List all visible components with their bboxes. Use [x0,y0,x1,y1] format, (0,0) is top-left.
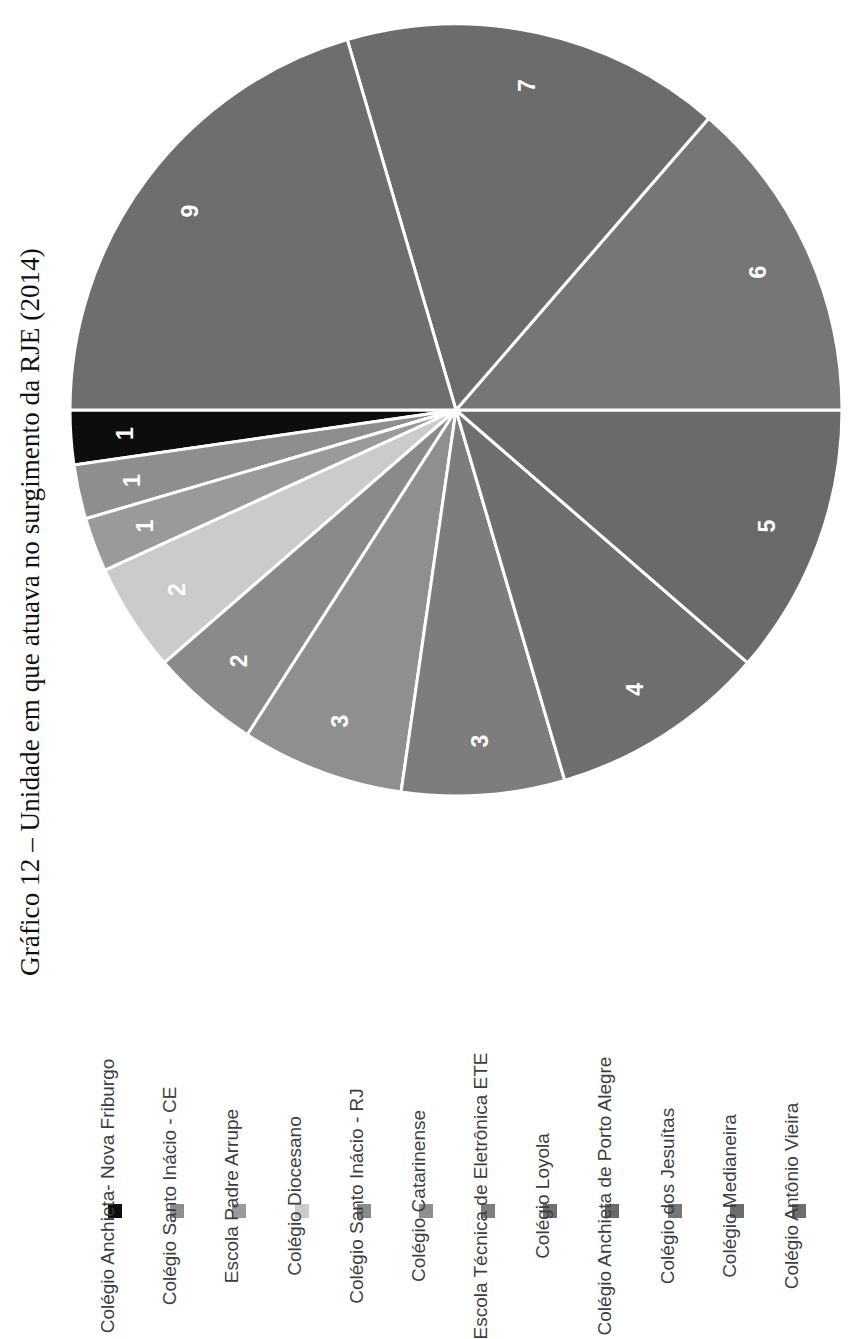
pie-slice-value-label: 1 [132,519,158,532]
pie-slice-value-label: 6 [745,266,771,279]
pie-chart-svg: 111223345679 [68,24,844,796]
pie-slice-value-label: 2 [164,583,190,596]
legend-item[interactable]: Colégio dos Jesuítas [664,858,690,1224]
legend-item-label: Colégio Anchieta de Porto Alegre [595,1057,614,1336]
pie-slice-value-label: 1 [112,427,138,440]
legend-item[interactable]: Colégio Loyola [539,858,565,1224]
pie-slice-value-label: 4 [623,683,649,696]
pie-slice-value-label: 1 [119,474,145,487]
pie-slice-value-label: 3 [327,715,353,728]
pie-slice-value-label: 5 [754,519,780,532]
page-title: Gráfico 12 – Unidade em que atuava no su… [0,0,60,1224]
legend-item[interactable]: Colégio Antônio Vieira [788,858,814,1224]
legend-item-label: Colégio Santo Inácio - RJ [347,1088,366,1303]
chart-legend: Colégio Anchieta- Nova FriburgoColégio S… [104,858,850,1224]
legend-item-label: Escola Padre Arrupe [222,1109,241,1283]
pie-chart: 111223345679 [68,24,844,796]
legend-item[interactable]: Colégio Santo Inácio - CE [166,858,192,1224]
pie-slice-group [70,24,842,796]
legend-item[interactable]: Colégio Santo Inácio - RJ [353,858,379,1224]
legend-item[interactable]: Colégio Catarinense [415,858,441,1224]
legend-item[interactable]: Colégio Anchieta- Nova Friburgo [104,858,130,1224]
legend-item-label: Escola Técnica de Eletrônica ETE [471,1053,490,1339]
legend-item[interactable]: Colégio Medianeira [726,858,752,1224]
legend-item-label: Colégio Antônio Vieira [782,1103,801,1290]
legend-item[interactable]: Escola Técnica de Eletrônica ETE [477,858,503,1224]
pie-slice-value-label: 2 [226,655,252,668]
legend-item-label: Colégio Diocesano [285,1116,304,1276]
legend-item-label: Colégio Anchieta- Nova Friburgo [98,1059,117,1334]
legend-item-label: Colégio Medianeira [720,1114,739,1278]
legend-item-label: Colégio dos Jesuítas [658,1108,677,1284]
legend-item[interactable]: Colégio Anchieta de Porto Alegre [601,858,627,1224]
pie-slice-value-label: 3 [467,735,493,748]
legend-item-label: Colégio Loyola [533,1133,552,1259]
legend-item[interactable]: Colégio Diocesano [291,858,317,1224]
pie-slice-value-label: 7 [514,79,540,92]
pie-slice-value-label: 9 [177,205,203,218]
legend-item-label: Colégio Catarinense [409,1110,428,1282]
legend-item-label: Colégio Santo Inácio - CE [160,1087,179,1306]
legend-item[interactable]: Escola Padre Arrupe [228,858,254,1224]
chart-title-text: Gráfico 12 – Unidade em que atuava no su… [15,248,46,976]
